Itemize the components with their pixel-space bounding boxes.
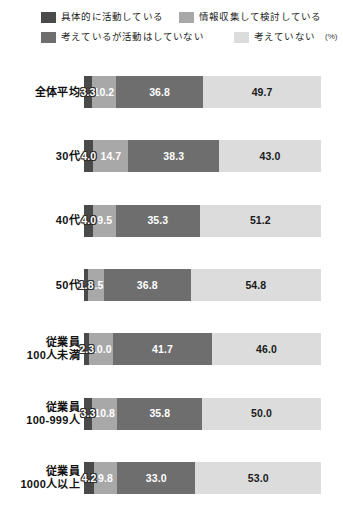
bar-row-label: 従業員1000人以上 xyxy=(0,465,84,491)
bar-segment-value: 14.7 xyxy=(100,151,121,162)
bar-track: 4.09.535.351.2 xyxy=(84,205,321,237)
bar-segment: 36.8 xyxy=(104,269,191,301)
bar-row-label-line: 40代 xyxy=(0,214,80,227)
legend-swatch-icon-0 xyxy=(41,12,56,23)
bar-segment: 36.8 xyxy=(116,76,203,108)
bar-segment-value: 4.0 xyxy=(81,215,96,226)
bar-row-label: 30代 xyxy=(0,150,84,163)
bar-row: 従業員1000人以上4.29.833.053.0 xyxy=(0,446,343,510)
bar-row-label-line: 従業員 xyxy=(0,465,80,478)
bar-segment: 51.2 xyxy=(200,205,321,237)
bar-segment-value: 3.3 xyxy=(80,408,95,419)
bar-row-label: 従業員100-999人 xyxy=(0,401,84,427)
bar-row-label-line: 100人未満 xyxy=(0,349,80,362)
bar-segment: 9.8 xyxy=(94,462,117,494)
bar-segment: 33.0 xyxy=(117,462,195,494)
legend-item-1: 情報収集して検討している xyxy=(179,12,321,23)
bar-segment: 3.3 xyxy=(84,76,92,108)
bar-row: 全体平均3.310.236.849.7 xyxy=(0,60,343,124)
bar-segment: 4.0 xyxy=(84,140,93,172)
bar-track: 3.310.835.850.0 xyxy=(84,398,321,430)
bar-segment-value: 9.5 xyxy=(97,215,112,226)
bar-segment-value: 1.8 xyxy=(79,280,94,291)
bar-segment-value: 3.3 xyxy=(80,87,95,98)
legend-item-0: 具体的に活動している xyxy=(41,12,163,23)
bar-segment: 53.0 xyxy=(195,462,321,494)
bar-row-label-line: 従業員 xyxy=(0,336,80,349)
bar-segment-value: 46.0 xyxy=(256,344,277,355)
bar-segment: 50.0 xyxy=(202,398,321,430)
bar-row-label-line: 従業員 xyxy=(0,401,80,414)
legend-item-2: 考えているが活動はしていない xyxy=(41,32,204,43)
bar-segment: 3.3 xyxy=(84,398,92,430)
bar-segment-value: 35.8 xyxy=(149,408,170,419)
legend-swatch-icon-2 xyxy=(41,32,56,43)
bar-row-label-line: 1000人以上 xyxy=(0,478,80,491)
bar-segment-value: 4.0 xyxy=(81,151,96,162)
legend-swatch-icon-3 xyxy=(234,32,249,43)
bar-row: 40代4.09.535.351.2 xyxy=(0,189,343,253)
bar-row-label-line: 100-999人 xyxy=(0,414,80,427)
bar-segment-value: 10.8 xyxy=(94,408,115,419)
bar-segment: 14.7 xyxy=(93,140,128,172)
legend-row-2: 考えているが活動はしていない 考えていない (%) xyxy=(0,28,343,46)
bar-segment-value: 43.0 xyxy=(260,151,281,162)
bar-segment-value: 33.0 xyxy=(146,473,167,484)
bar-row-label: 50代 xyxy=(0,279,84,292)
bar-segment-value: 38.3 xyxy=(163,151,184,162)
bar-segment: 49.7 xyxy=(203,76,321,108)
bar-segment: 4.0 xyxy=(84,205,93,237)
bar-row-label-line: 全体平均 xyxy=(0,86,80,99)
bar-row-label: 全体平均 xyxy=(0,86,84,99)
bar-segment: 35.8 xyxy=(117,398,202,430)
bar-segment-value: 50.0 xyxy=(251,408,272,419)
bar-row-label-line: 30代 xyxy=(0,150,80,163)
bar-row-label: 従業員100人未満 xyxy=(0,336,84,362)
bar-segment-value: 9.8 xyxy=(98,473,113,484)
bar-track: 4.29.833.053.0 xyxy=(84,462,321,494)
stacked-bar-chart: 具体的に活動している 情報収集して検討している 考えているが活動はしていない 考… xyxy=(0,0,343,513)
bar-segment-value: 53.0 xyxy=(248,473,269,484)
bar-segment-value: 41.7 xyxy=(152,344,173,355)
percent-unit-note: (%) xyxy=(325,33,337,41)
bar-segment-value: 54.8 xyxy=(245,280,266,291)
legend-label-2: 考えているが活動はしていない xyxy=(61,32,204,42)
bar-segment-value: 35.3 xyxy=(147,215,168,226)
bar-track: 1.86.536.854.8 xyxy=(84,269,321,301)
bar-segment-value: 4.2 xyxy=(82,473,97,484)
legend-label-0: 具体的に活動している xyxy=(61,12,163,22)
bar-segment-value: 36.8 xyxy=(149,87,170,98)
bar-segment: 35.3 xyxy=(116,205,200,237)
bar-row: 30代4.014.738.343.0 xyxy=(0,124,343,188)
bar-segment: 46.0 xyxy=(212,333,321,365)
legend-item-3: 考えていない xyxy=(234,32,315,43)
bar-track: 4.014.738.343.0 xyxy=(84,140,321,172)
bar-segment-value: 10.2 xyxy=(93,87,114,98)
bar-row: 50代1.86.536.854.8 xyxy=(0,253,343,317)
bar-segment-value: 36.8 xyxy=(137,280,158,291)
chart-legend: 具体的に活動している 情報収集して検討している 考えているが活動はしていない 考… xyxy=(0,8,343,48)
bar-row: 従業員100-999人3.310.835.850.0 xyxy=(0,381,343,445)
legend-label-3: 考えていない xyxy=(254,32,315,42)
bar-segment: 4.2 xyxy=(84,462,94,494)
bar-row-label: 40代 xyxy=(0,214,84,227)
legend-label-1: 情報収集して検討している xyxy=(199,12,321,22)
bar-track: 2.310.041.746.0 xyxy=(84,333,321,365)
bar-segment: 10.8 xyxy=(92,398,118,430)
bar-segment-value: 51.2 xyxy=(250,215,271,226)
bar-segment: 9.5 xyxy=(93,205,116,237)
bar-segment: 41.7 xyxy=(113,333,212,365)
bar-segment: 38.3 xyxy=(128,140,219,172)
legend-row-1: 具体的に活動している 情報収集して検討している xyxy=(0,8,343,26)
bar-segment-value: 49.7 xyxy=(252,87,273,98)
bar-track: 3.310.236.849.7 xyxy=(84,76,321,108)
bar-segment: 54.8 xyxy=(191,269,321,301)
bar-segment: 43.0 xyxy=(219,140,321,172)
legend-swatch-icon-1 xyxy=(179,12,194,23)
bar-row: 従業員100人未満2.310.041.746.0 xyxy=(0,317,343,381)
bar-row-label-line: 50代 xyxy=(0,279,80,292)
plot-area: 全体平均3.310.236.849.730代4.014.738.343.040代… xyxy=(0,60,343,510)
bar-segment-value: 2.3 xyxy=(79,344,94,355)
